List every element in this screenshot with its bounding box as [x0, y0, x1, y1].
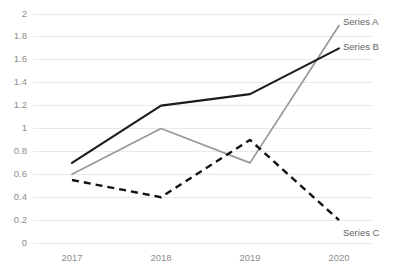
series-a-label: Series A — [343, 16, 379, 27]
series-c-label: Series C — [343, 227, 380, 238]
y-tick-label: 1.8 — [14, 30, 27, 41]
series-b-label: Series B — [343, 41, 379, 52]
x-tick-label: 2017 — [61, 252, 82, 263]
y-axis-tick-labels: 2 1.8 1.6 1.4 1.2 1 0.8 0.6 0.4 0.2 0 — [14, 8, 27, 248]
y-tick-label: 1.4 — [14, 76, 27, 87]
y-tick-label: 1 — [22, 122, 27, 133]
y-tick-label: 0.8 — [14, 145, 27, 156]
y-tick-label: 1.6 — [14, 53, 27, 64]
series-labels-group: Series A Series B Series C — [343, 16, 380, 238]
y-tick-label: 0.6 — [14, 168, 27, 179]
y-tick-label: 0 — [22, 237, 27, 248]
y-tick-label: 2 — [22, 8, 27, 19]
x-tick-label: 2018 — [150, 252, 171, 263]
gridlines — [33, 14, 372, 243]
x-axis-tick-labels: 2017 2018 2019 2020 — [61, 252, 349, 263]
chart-canvas: 2 1.8 1.6 1.4 1.2 1 0.8 0.6 0.4 0.2 0 20… — [0, 0, 395, 275]
y-tick-label: 0.4 — [14, 191, 27, 202]
y-tick-label: 0.2 — [14, 214, 27, 225]
data-series-group — [72, 25, 339, 220]
line-chart: 2 1.8 1.6 1.4 1.2 1 0.8 0.6 0.4 0.2 0 20… — [0, 0, 395, 275]
series-c-line — [72, 140, 339, 220]
y-tick-label: 1.2 — [14, 99, 27, 110]
x-tick-label: 2019 — [239, 252, 260, 263]
x-tick-label: 2020 — [328, 252, 349, 263]
